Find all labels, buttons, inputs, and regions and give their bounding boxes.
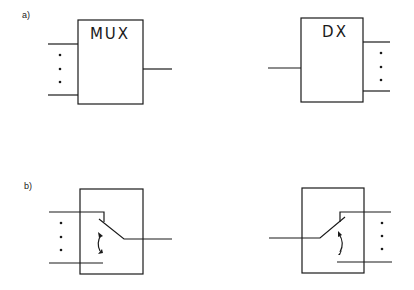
mux-switch-arm-output — [99, 219, 172, 239]
arrowhead-up-icon — [98, 232, 103, 238]
ellipsis-dots-icon — [380, 52, 383, 82]
ellipsis-dots-icon — [59, 54, 62, 84]
panel-a-label: a) — [22, 10, 30, 20]
mux-block: MUX — [48, 20, 172, 104]
arrowhead-down-icon — [98, 249, 103, 254]
dx-title: DX — [322, 23, 348, 41]
mux-title: MUX — [90, 25, 130, 43]
dx-switch-block — [269, 188, 392, 273]
dx-switch-input-arm — [269, 217, 345, 238]
ellipsis-dots-icon — [60, 222, 63, 252]
dx-block: DX — [268, 18, 390, 102]
dx-switch-output-top — [340, 212, 391, 222]
mux-demux-diagram: a) MUX DX b) — [0, 0, 414, 290]
mux-switch-box — [80, 189, 143, 274]
ellipsis-dots-icon — [381, 222, 384, 251]
dx-switch-box — [302, 188, 364, 273]
mux-switch-input-top — [49, 212, 104, 222]
mux-switch-block — [49, 189, 172, 274]
switch-arrow-icon — [339, 234, 342, 252]
panel-b-label: b) — [24, 181, 32, 191]
